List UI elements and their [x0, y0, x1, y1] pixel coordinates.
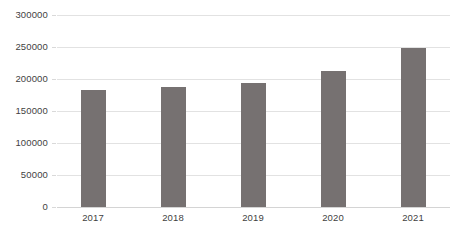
bars-layer — [57, 15, 450, 207]
y-axis-tick-label: 150000 — [15, 106, 48, 116]
x-axis-label-2017: 2017 — [63, 213, 123, 223]
bar-2017[interactable] — [81, 90, 106, 207]
bar-2018[interactable] — [161, 87, 186, 207]
x-axis-label-2019: 2019 — [223, 213, 283, 223]
x-axis-label-2020: 2020 — [303, 213, 363, 223]
x-axis-label-2021: 2021 — [383, 213, 443, 223]
y-axis-tick-mark — [52, 79, 56, 80]
x-axis-baseline — [57, 207, 450, 208]
x-axis-label-2018: 2018 — [143, 213, 203, 223]
y-axis-tick-mark — [52, 15, 56, 16]
y-axis-tick-mark — [52, 111, 56, 112]
y-axis-tick-label: 300000 — [15, 10, 48, 20]
bar-2019[interactable] — [241, 83, 266, 207]
y-axis-tick-label: 100000 — [15, 138, 48, 148]
bar-chart: 300000 250000 200000 150000 100000 50000… — [0, 0, 457, 235]
y-axis-tick-label: 50000 — [21, 170, 48, 180]
y-axis-tick-label: 200000 — [15, 74, 48, 84]
y-axis-tick-label: 0 — [43, 202, 48, 212]
bar-2020[interactable] — [321, 71, 346, 207]
y-axis-tick-mark — [52, 143, 56, 144]
y-axis-tick-mark — [52, 47, 56, 48]
y-axis-tick-mark — [52, 207, 56, 208]
y-axis-tick-label: 250000 — [15, 42, 48, 52]
bar-2021[interactable] — [401, 48, 426, 207]
y-axis-tick-mark — [52, 175, 56, 176]
